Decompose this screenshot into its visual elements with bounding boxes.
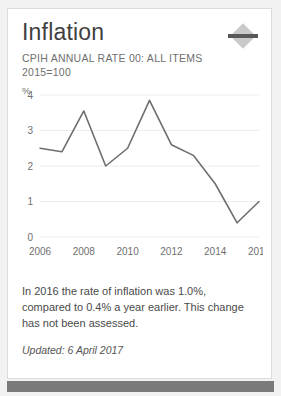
chart-svg: 01234 200620082010201220142016 [18,87,263,265]
svg-text:2006: 2006 [29,246,52,257]
inflation-chart: % 01234 200620082010201220142016 [18,87,261,267]
y-axis-unit-label: % [22,85,30,96]
collapse-diamond-icon[interactable] [226,23,260,49]
svg-text:1: 1 [27,196,33,207]
chart-x-tick-labels: 200620082010201220142016 [29,246,263,257]
svg-text:0: 0 [27,232,33,243]
description-text: In 2016 the rate of inflation was 1.0%, … [22,283,257,331]
svg-text:2010: 2010 [116,246,139,257]
chart-data-line [40,100,259,222]
svg-text:3: 3 [27,125,33,136]
card-subtitle: CPIH ANNUAL RATE 00: ALL ITEMS 2015=100 [22,51,212,79]
footer-bar [7,381,274,392]
description-block: In 2016 the rate of inflation was 1.0%, … [22,283,257,356]
svg-text:2014: 2014 [204,246,227,257]
page-title: Inflation [22,19,257,45]
updated-timestamp: Updated: 6 April 2017 [22,344,257,356]
chart-gridlines [40,95,259,237]
minus-bar-shape [228,34,258,38]
card-header: Inflation CPIH ANNUAL RATE 00: ALL ITEMS… [8,9,271,79]
svg-text:2016: 2016 [248,246,263,257]
svg-text:2012: 2012 [160,246,183,257]
chart-y-tick-labels: 01234 [27,90,33,243]
svg-text:2008: 2008 [73,246,96,257]
inflation-card: Inflation CPIH ANNUAL RATE 00: ALL ITEMS… [7,8,272,379]
svg-text:2: 2 [27,161,33,172]
